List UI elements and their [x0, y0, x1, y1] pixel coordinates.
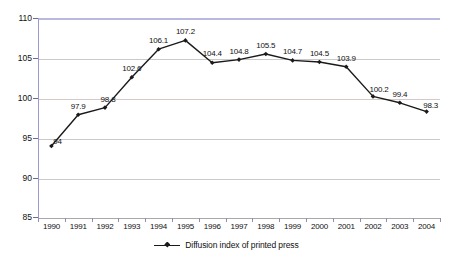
- data-point-label: 104.8: [229, 47, 248, 56]
- x-tick-mark: [38, 218, 39, 222]
- data-point-label: 103.9: [337, 54, 356, 63]
- data-point-label: 107.2: [176, 27, 195, 36]
- x-tick-mark: [226, 218, 227, 222]
- data-point-label: 97.9: [71, 102, 86, 111]
- x-tick-label: 2004: [407, 222, 447, 231]
- x-tick-mark: [199, 218, 200, 222]
- chart-container: 110 105 100 95 90 85 1990199119921993199…: [0, 0, 453, 267]
- x-tick-mark: [279, 218, 280, 222]
- y-tick-mark: [33, 178, 38, 179]
- y-tick-mark: [33, 138, 38, 139]
- x-tick-mark: [92, 218, 93, 222]
- x-tick-mark: [252, 218, 253, 222]
- y-tick-label: 105: [2, 53, 32, 63]
- data-point-label: 106.1: [149, 36, 168, 45]
- data-point-label: 105.5: [256, 41, 275, 50]
- y-tick-label: 85: [2, 212, 32, 222]
- data-point-label: 98.3: [423, 101, 438, 110]
- y-tick-label: 95: [2, 133, 32, 143]
- legend-label: Diffusion index of printed press: [185, 240, 298, 250]
- data-point-label: 104.5: [310, 49, 329, 58]
- y-tick-mark: [33, 18, 38, 19]
- y-tick-label: 110: [2, 13, 32, 23]
- x-tick-mark: [65, 218, 66, 222]
- x-tick-mark: [333, 218, 334, 222]
- x-tick-mark: [172, 218, 173, 222]
- x-tick-mark: [118, 218, 119, 222]
- legend-marker-icon: [154, 241, 180, 250]
- data-point-label: 94: [53, 137, 62, 146]
- data-point-label: 98.8: [101, 95, 116, 104]
- y-tick-mark: [33, 58, 38, 59]
- x-tick-mark: [145, 218, 146, 222]
- x-tick-mark: [413, 218, 414, 222]
- data-point-label: 102.6: [122, 64, 141, 73]
- y-tick-label: 90: [2, 173, 32, 183]
- x-tick-mark: [440, 218, 441, 222]
- y-tick-label: 100: [2, 93, 32, 103]
- data-point-label: 104.7: [283, 47, 302, 56]
- data-point-label: 99.4: [392, 90, 407, 99]
- legend: Diffusion index of printed press: [0, 240, 453, 250]
- x-tick-mark: [360, 218, 361, 222]
- x-tick-mark: [386, 218, 387, 222]
- x-tick-mark: [306, 218, 307, 222]
- data-point-label: 104.4: [203, 49, 222, 58]
- data-point-label: 100.2: [369, 85, 388, 94]
- y-tick-mark: [33, 98, 38, 99]
